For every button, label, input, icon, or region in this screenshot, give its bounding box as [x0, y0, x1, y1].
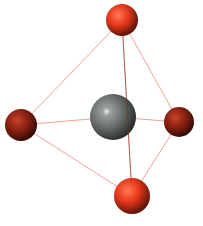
ligand-atom-right	[164, 107, 194, 137]
ligand-atom-bottom	[114, 178, 150, 214]
tetrahedral-molecule-diagram	[0, 0, 203, 226]
atoms-layer	[5, 4, 194, 214]
ligand-atom-left	[5, 109, 37, 141]
central-atom	[90, 94, 136, 140]
ligand-atom-top	[106, 4, 138, 36]
